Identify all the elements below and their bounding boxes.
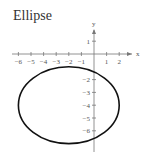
ellipse-curve [18,67,119,144]
y-tick-label: −2 [83,76,91,84]
x-axis [12,52,132,56]
x-tick-label: −6 [15,58,23,66]
x-tick-label: −1 [78,58,86,66]
y-tick-label: −5 [83,115,91,123]
y-tick-label: 1 [87,38,91,46]
x-axis-label: x [136,50,140,58]
y-axis-label: y [92,20,96,28]
y-axis-arrow-icon [92,29,96,34]
x-tick-label: 2 [117,58,121,66]
y-tick-label: −3 [83,89,91,97]
y-axis [92,29,96,152]
chart-plot: x y −6−5−4−3−2−112 1−2−3−4−5−6 [0,0,143,157]
x-tick-label: −3 [52,58,60,66]
x-tick-label: −5 [27,58,35,66]
x-tick-label: 1 [105,58,109,66]
x-axis-arrow-icon [127,52,132,56]
x-tick-label: −2 [65,58,73,66]
y-tick-label: −4 [83,102,91,110]
y-tick-label: −6 [83,127,91,135]
x-tick-label: −4 [40,58,48,66]
